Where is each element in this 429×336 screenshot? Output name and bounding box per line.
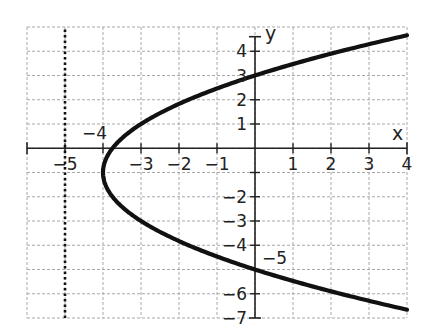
x-tick-label: 4 xyxy=(402,154,413,174)
y-axis-label: y xyxy=(265,22,276,44)
x-tick-label: −5 xyxy=(52,154,77,174)
y-tick-label: −4 xyxy=(222,235,247,255)
x-tick-label: 3 xyxy=(364,154,375,174)
y-tick-label: 1 xyxy=(236,114,247,134)
y-tick-label: 4 xyxy=(236,41,247,61)
y-tick-label: −7 xyxy=(222,308,247,328)
x-tick-label: 1 xyxy=(288,154,299,174)
y-tick-label: −3 xyxy=(222,211,247,231)
x-tick-label: −2 xyxy=(166,154,191,174)
x-tick-label: −3 xyxy=(128,154,153,174)
y-tick-label: 3 xyxy=(236,66,247,86)
vertex-x-label: −4 xyxy=(82,123,107,143)
y-intercept-label: −5 xyxy=(262,248,287,268)
y-tick-label: 2 xyxy=(236,90,247,110)
x-axis-label: x xyxy=(392,122,403,144)
y-tick-label: −2 xyxy=(222,187,247,207)
y-tick-label: −6 xyxy=(222,284,247,304)
x-tick-label: −1 xyxy=(204,154,229,174)
x-tick-label: 2 xyxy=(326,154,337,174)
parabola-chart: −5−3−2−112344321−2−3−4−6−7 x y −4 −5 xyxy=(0,0,429,336)
